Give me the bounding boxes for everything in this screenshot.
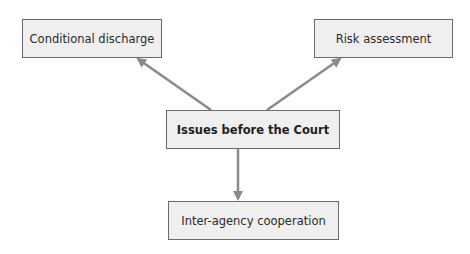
node-label: Inter-agency cooperation [181, 214, 325, 228]
node-label: Conditional discharge [30, 32, 155, 46]
node-inter-agency-cooperation: Inter-agency cooperation [168, 201, 339, 240]
node-label: Issues before the Court [177, 123, 329, 137]
arrow-to-risk-assessment [267, 59, 340, 110]
arrow-to-conditional-discharge [138, 59, 211, 110]
node-conditional-discharge: Conditional discharge [22, 19, 162, 58]
node-label: Risk assessment [336, 32, 432, 46]
node-issues-before-the-court: Issues before the Court [166, 110, 340, 149]
node-risk-assessment: Risk assessment [314, 19, 453, 58]
